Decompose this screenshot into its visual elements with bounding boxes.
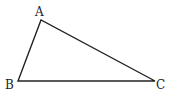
vertex-label-c: C [156,78,165,92]
vertex-label-b: B [5,78,14,92]
triangle-diagram: A B C [0,0,179,93]
triangle-abc [18,20,155,81]
vertex-label-a: A [34,5,44,19]
